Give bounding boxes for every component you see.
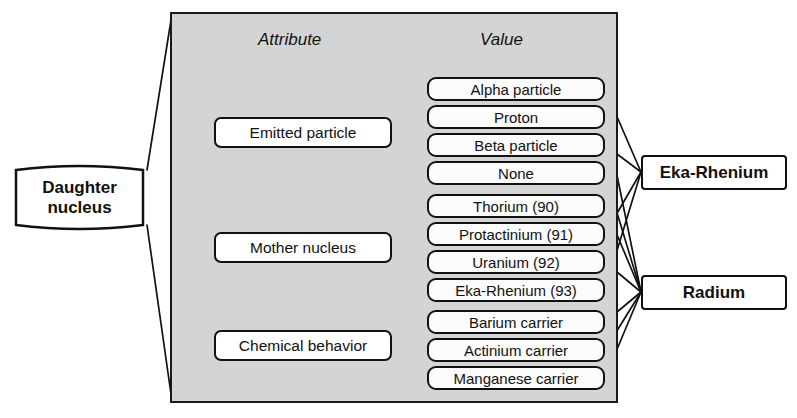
daughter-nucleus-label-line2: nucleus <box>47 198 111 217</box>
daughter-nucleus-label: Daughter nucleus <box>12 161 147 234</box>
value-box-protactinium-91[interactable]: Protactinium (91) <box>427 222 605 246</box>
diagram-canvas: Attribute Value Emitted particle Mother … <box>0 0 797 418</box>
column-header-value: Value <box>480 30 523 50</box>
attribute-box-emitted-particle[interactable]: Emitted particle <box>214 117 392 148</box>
daughter-nucleus-label-line1: Daughter <box>42 178 117 197</box>
column-header-attribute: Attribute <box>258 30 321 50</box>
attribute-box-chemical-behavior[interactable]: Chemical behavior <box>214 330 392 361</box>
value-box-manganese-carrier[interactable]: Manganese carrier <box>427 366 605 390</box>
value-box-none[interactable]: None <box>427 161 605 185</box>
value-box-eka-rhenium-93[interactable]: Eka-Rhenium (93) <box>427 278 605 302</box>
result-box-eka-rhenium[interactable]: Eka-Rhenium <box>641 155 787 190</box>
value-box-thorium-90[interactable]: Thorium (90) <box>427 194 605 218</box>
value-box-uranium-92[interactable]: Uranium (92) <box>427 250 605 274</box>
value-box-beta-particle[interactable]: Beta particle <box>427 133 605 157</box>
value-box-alpha-particle[interactable]: Alpha particle <box>427 77 605 101</box>
value-box-proton[interactable]: Proton <box>427 105 605 129</box>
attribute-box-mother-nucleus[interactable]: Mother nucleus <box>214 232 392 263</box>
value-box-barium-carrier[interactable]: Barium carrier <box>427 310 605 334</box>
source-node-daughter-nucleus[interactable]: Daughter nucleus <box>12 161 147 234</box>
value-box-actinium-carrier[interactable]: Actinium carrier <box>427 338 605 362</box>
result-box-radium[interactable]: Radium <box>641 275 787 310</box>
